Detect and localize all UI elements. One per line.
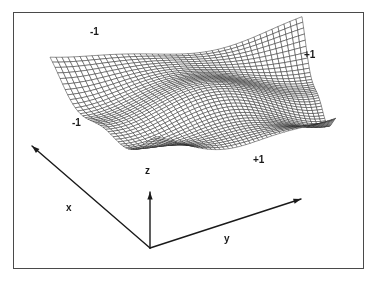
y-axis-label: y bbox=[224, 234, 230, 244]
surface-mesh-canvas bbox=[0, 0, 379, 282]
corner-label-far-left: -1 bbox=[90, 27, 99, 37]
corner-label-far-right: +1 bbox=[304, 50, 315, 60]
x-axis-label: x bbox=[66, 203, 72, 213]
corner-label-near-left: -1 bbox=[72, 118, 81, 128]
z-axis-label: z bbox=[145, 166, 150, 176]
surface-plot-figure: -1 +1 -1 +1 x y z bbox=[0, 0, 379, 282]
corner-label-near-right: +1 bbox=[253, 155, 264, 165]
